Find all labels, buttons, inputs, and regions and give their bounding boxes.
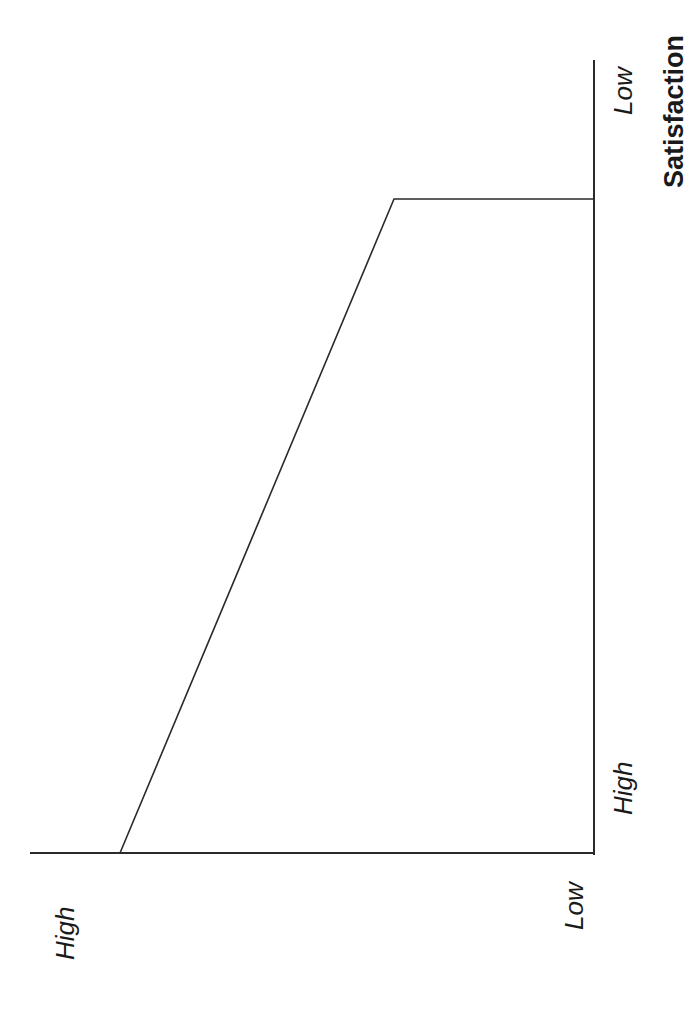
value-axis-low-label: Low [559, 880, 589, 930]
satisfaction-high-label: High [608, 762, 638, 815]
data-curve [120, 199, 594, 853]
chart-canvas: High Low High Low Satisfaction [0, 0, 696, 1025]
value-axis-high-label: High [50, 907, 80, 960]
satisfaction-low-label: Low [608, 65, 638, 115]
satisfaction-axis-title: Satisfaction [659, 35, 689, 188]
